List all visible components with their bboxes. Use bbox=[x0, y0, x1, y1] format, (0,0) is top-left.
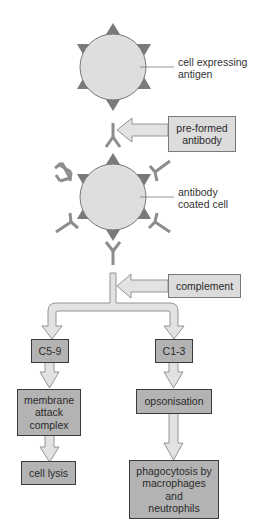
box-text: opsonisation bbox=[145, 395, 204, 408]
box-text: complement bbox=[176, 280, 233, 293]
antibody-coated-cell-label: antibody coated cell bbox=[178, 186, 228, 210]
antigen-cell bbox=[77, 23, 174, 111]
antibody-icon bbox=[150, 161, 170, 181]
arrow-down bbox=[40, 362, 59, 388]
phagocytosis-box: phagocytosis by macrophages and neutroph… bbox=[129, 460, 219, 519]
label-text: antibody coated cell bbox=[178, 186, 228, 210]
box-text: cell lysis bbox=[29, 467, 68, 480]
arrow-down bbox=[164, 362, 183, 388]
antibody-icon bbox=[149, 213, 170, 232]
box-text: C1-3 bbox=[163, 345, 186, 358]
cell-body bbox=[80, 164, 146, 230]
antibody-icon bbox=[106, 123, 120, 147]
preformed-antibody-arrow bbox=[117, 118, 168, 142]
membrane-attack-complex-box: membrane attack complex bbox=[17, 389, 81, 436]
box-text: C5-9 bbox=[39, 345, 62, 358]
box-text: pre-formed antibody bbox=[176, 122, 227, 147]
preformed-antibody-box: pre-formed antibody bbox=[168, 116, 236, 152]
antibody-icon bbox=[56, 213, 78, 232]
box-text: membrane attack complex bbox=[24, 394, 74, 432]
complement-arrow bbox=[117, 274, 168, 298]
complement-box: complement bbox=[168, 274, 241, 298]
cell-body bbox=[80, 34, 146, 100]
box-text: phagocytosis by macrophages and neutroph… bbox=[136, 465, 211, 515]
antibody-coated-cell bbox=[55, 153, 174, 265]
arrow-down bbox=[40, 435, 59, 462]
label-text: cell expressing antigen bbox=[178, 56, 247, 80]
cell-lysis-box: cell lysis bbox=[21, 461, 76, 485]
opsonisation-box: opsonisation bbox=[136, 389, 212, 414]
arrow-down bbox=[164, 413, 183, 460]
c5-9-box: C5-9 bbox=[31, 339, 69, 363]
c1-3-box: C1-3 bbox=[155, 339, 193, 363]
cell-expressing-antigen-label: cell expressing antigen bbox=[178, 56, 247, 80]
antibody-icon bbox=[106, 242, 120, 265]
